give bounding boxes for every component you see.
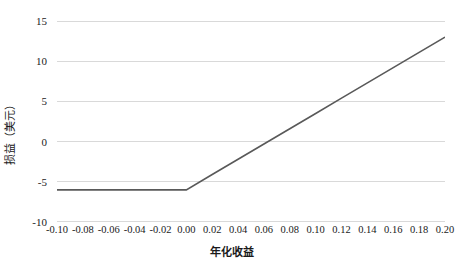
y-tick-label: -5 (38, 176, 47, 187)
y-tick-label: 0 (42, 136, 48, 147)
x-tick-label: -0.08 (72, 224, 94, 236)
x-axis-tick-labels: -0.10 -0.08 -0.06 -0.04 -0.02 0.00 0.02 … (57, 224, 445, 238)
x-tick-label: 0.14 (358, 224, 376, 236)
x-tick-label: 0.08 (281, 224, 299, 236)
x-tick-label: -0.06 (98, 224, 120, 236)
gridline-15 (57, 21, 445, 22)
x-tick-label: -0.10 (46, 224, 68, 236)
x-tick-label: 0.20 (436, 224, 454, 236)
plot-area (57, 21, 445, 222)
y-tick-label: 15 (36, 16, 47, 27)
x-tick-label: 0.06 (255, 224, 273, 236)
y-tick-label: 5 (42, 96, 48, 107)
series-polyline (57, 37, 445, 190)
gridline-minus10 (57, 221, 445, 222)
y-tick-label: 10 (36, 56, 47, 67)
x-tick-label: 0.12 (332, 224, 350, 236)
gridline-0 (57, 141, 445, 142)
x-axis-title: 年化收益 (0, 243, 463, 259)
y-axis-tick-labels: 15 10 5 0 -5 -10 (0, 21, 52, 222)
x-tick-label: 0.04 (229, 224, 247, 236)
gridline-10 (57, 61, 445, 62)
x-tick-label: 0.02 (203, 224, 221, 236)
gridline-minus5 (57, 181, 445, 182)
x-tick-label: 0.16 (384, 224, 402, 236)
x-tick-label: -0.02 (150, 224, 172, 236)
payoff-chart: 损益（美元） 15 10 5 0 -5 -10 -0.10 -0.08 -0.0… (0, 0, 463, 264)
gridline-5 (57, 101, 445, 102)
x-tick-label: 0.18 (410, 224, 428, 236)
x-tick-label: -0.04 (124, 224, 146, 236)
x-tick-label: 0.00 (177, 224, 195, 236)
y-tick-label: -10 (32, 217, 47, 228)
x-tick-label: 0.10 (306, 224, 324, 236)
payoff-line (57, 21, 445, 222)
